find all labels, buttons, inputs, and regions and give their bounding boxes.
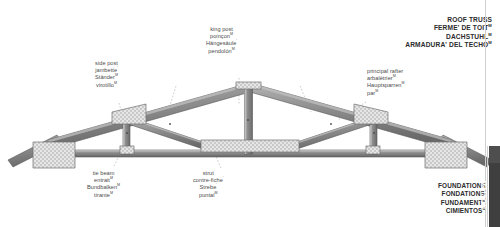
callout-line: pendolónM xyxy=(206,48,237,55)
ref-marker: M xyxy=(375,89,378,93)
ref-marker: M xyxy=(488,23,492,28)
ref-marker: M xyxy=(402,82,405,86)
callout-side-post: side post jambette' StänderM virotilloM xyxy=(95,60,118,89)
ref-marker: M xyxy=(215,191,218,195)
ref-marker: ' xyxy=(117,66,118,70)
ref-marker: M xyxy=(232,47,235,51)
callout-line: Strebe' xyxy=(193,184,224,191)
roof-truss-illustration: side post jambette' StänderM virotilloM … xyxy=(0,0,500,227)
joint-plate-right-upper xyxy=(354,104,388,124)
ref-marker: M xyxy=(393,74,396,78)
callout-strut: strut contre-fiche' Strebe' puntalM xyxy=(193,170,224,199)
ref-marker: M xyxy=(110,191,113,195)
ref-marker: M xyxy=(110,176,113,180)
callout-line: puntalM xyxy=(193,192,224,199)
callout-king-post: king post poinçonM Hängesäule' pendolónM xyxy=(206,26,237,55)
title-block: ROOF TRUSS FERME' DE TOITM DACHSTUHLM AR… xyxy=(405,16,492,50)
callout-principal-rafter: principal rafter arbalétrierM Hauptsparr… xyxy=(367,68,405,97)
bearing-plate-right xyxy=(425,142,467,168)
joint-plate-center-lower xyxy=(201,140,299,152)
section-tab-label: MAISON xyxy=(478,163,489,227)
section-tab[interactable]: MAISON xyxy=(487,146,500,227)
principal-rafter-left xyxy=(48,84,250,148)
bearing-plate-left xyxy=(33,142,75,168)
callout-tie-beam: tie beam entraitM BundbalkenM tiranteM xyxy=(87,170,120,199)
ref-marker: M xyxy=(488,40,492,45)
callout-line: parM xyxy=(367,90,405,97)
title-line: DACHSTUHLM xyxy=(405,33,492,41)
ref-marker: ' xyxy=(223,176,224,180)
ref-marker: ' xyxy=(236,40,237,44)
section-tab-body xyxy=(489,163,500,227)
ref-marker: M xyxy=(115,74,118,78)
title-line: ARMADURA' DEL TECHOM xyxy=(405,41,492,49)
section-tab-cap xyxy=(489,146,500,163)
callout-line: BundbalkenM xyxy=(87,184,120,191)
ref-marker: M xyxy=(114,81,117,85)
title-line: FERME' DE TOITM xyxy=(405,24,492,32)
callout-line: HauptsparrenM xyxy=(367,82,405,89)
joint-plate-left-lower xyxy=(120,146,134,154)
callout-line: tiranteM xyxy=(87,192,120,199)
joint-plate-right-lower xyxy=(366,146,380,154)
ref-marker: M xyxy=(230,32,233,36)
principal-rafter-right xyxy=(250,84,452,148)
joint-plate-left-upper xyxy=(112,104,146,124)
ref-marker: ' xyxy=(216,184,217,188)
ref-marker: M xyxy=(488,32,492,37)
ref-marker: M xyxy=(117,184,120,188)
joint-plate-apex xyxy=(236,82,261,89)
callout-line: virotilloM xyxy=(95,82,118,89)
